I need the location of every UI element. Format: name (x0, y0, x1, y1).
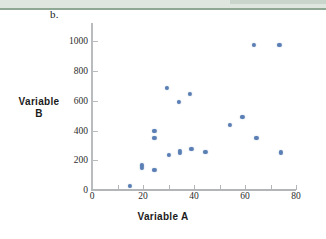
x-tick-label: 60 (240, 191, 250, 201)
y-tick-mark (93, 41, 98, 42)
y-axis-title-line1: Variable (19, 96, 60, 107)
y-tick-mark (93, 71, 98, 72)
y-tick-label: 400 (74, 126, 88, 136)
y-tick-mark (93, 131, 98, 132)
scatter-point (254, 136, 258, 140)
page-bottom-margin (0, 233, 326, 239)
x-tick-mark (220, 185, 221, 190)
scatter-point (140, 166, 144, 170)
scatter-point (165, 86, 169, 90)
scatter-point (128, 184, 132, 188)
y-tick-mark (93, 101, 98, 102)
scatter-point (177, 100, 181, 104)
x-tick-mark (271, 185, 272, 190)
x-tick-label: 80 (291, 191, 301, 201)
x-axis-title: Variable A (0, 211, 326, 222)
scatter-point (228, 122, 232, 126)
x-tick-mark (245, 185, 246, 190)
scatter-point (240, 115, 244, 119)
scatter-point (277, 43, 281, 47)
scatter-point (152, 168, 156, 172)
y-tick-label: 200 (74, 155, 88, 165)
scatter-point (279, 150, 283, 154)
y-axis-title: Variable B (2, 96, 76, 120)
x-tick-label: 20 (138, 191, 148, 201)
y-axis-title-line2: B (35, 108, 43, 119)
y-tick-label: 800 (74, 66, 88, 76)
scatter-point (203, 150, 207, 154)
scatter-point (188, 92, 192, 96)
scatter-point (189, 147, 193, 151)
x-tick-label: 0 (90, 191, 95, 201)
x-tick-mark (118, 185, 119, 190)
x-tick-mark (143, 185, 144, 190)
scatter-point (152, 129, 156, 133)
x-tick-mark (296, 185, 297, 190)
x-tick-mark (194, 185, 195, 190)
scatter-point (178, 150, 182, 154)
y-axis-line (91, 23, 93, 190)
y-tick-label: 0 (83, 185, 88, 195)
scatter-point (152, 136, 156, 140)
y-tick-mark (93, 160, 98, 161)
scatter-point (166, 153, 170, 157)
scatter-point (252, 42, 256, 46)
x-tick-label: 40 (189, 191, 199, 201)
y-tick-label: 1000 (69, 36, 88, 46)
figure-panel: b. 02004006008001000 020406080 Variable … (0, 0, 326, 239)
x-tick-mark (169, 185, 170, 190)
